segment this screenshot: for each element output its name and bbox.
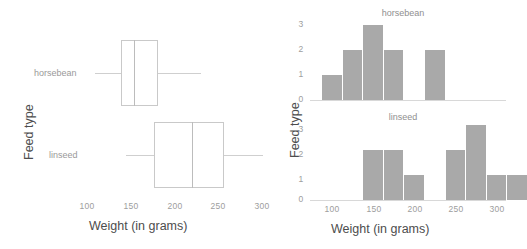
histogram-ytick-2: 2 [296, 149, 306, 159]
histogram-xtick-300: 300 [482, 204, 512, 214]
histogram-xtick-150: 150 [359, 204, 389, 214]
histogram-ytick-2: 2 [296, 44, 306, 54]
boxplot-xtick-100: 100 [72, 201, 102, 211]
histogram-xtick-200: 200 [400, 204, 430, 214]
boxplot-panel: Feed type horsebean linseed 100 150 200 … [0, 0, 253, 249]
boxplot-box [154, 122, 224, 188]
histogram-x-axis-title: Weight (in grams) [331, 222, 429, 236]
boxplot-xtick-250: 250 [203, 201, 233, 211]
histogram-bar [363, 150, 383, 200]
boxplot-whisker-left [126, 155, 155, 156]
boxplot-xtick-150: 150 [116, 201, 146, 211]
histogram-facet-title-linseed: linseed [363, 112, 443, 122]
histogram-ytick-1: 1 [296, 69, 306, 79]
histogram-bar [507, 175, 527, 200]
histogram-xtick-100: 100 [317, 204, 347, 214]
histogram-baseline [310, 200, 506, 201]
histogram-bar [425, 50, 445, 100]
boxplot-box [121, 40, 158, 106]
boxplot-median-line [134, 40, 135, 106]
histogram-bar [446, 150, 466, 200]
boxplot-y-axis-title: Feed type [22, 104, 36, 160]
boxplot-category-label-linseed: linseed [49, 150, 78, 160]
boxplot-xtick-200: 200 [160, 201, 190, 211]
histogram-ytick-0: 0 [296, 194, 306, 204]
histogram-bar [487, 175, 507, 200]
histogram-ytick-3: 3 [296, 124, 306, 134]
histogram-bar [466, 125, 486, 200]
histogram-bar [363, 25, 383, 100]
histogram-panel: Feed type horsebean 3 2 1 0 linseed 3 2 … [253, 0, 506, 249]
boxplot-whisker-left [95, 73, 122, 74]
boxplot-category-label-horsebean: horsebean [34, 68, 77, 78]
histogram-bar [343, 50, 363, 100]
histogram-baseline [310, 100, 506, 101]
histogram-ytick-0: 0 [296, 94, 306, 104]
boxplot-whisker-right [157, 73, 201, 74]
histogram-bar [384, 50, 404, 100]
boxplot-median-line [192, 122, 193, 188]
histogram-ytick-3: 3 [296, 19, 306, 29]
histogram-xtick-250: 250 [441, 204, 471, 214]
histogram-bar [322, 75, 342, 100]
histogram-facet-title-horsebean: horsebean [363, 8, 443, 18]
histogram-ytick-1: 1 [296, 174, 306, 184]
histogram-bar [404, 175, 424, 200]
boxplot-x-axis-title: Weight (in grams) [89, 219, 187, 233]
histogram-bar [384, 150, 404, 200]
